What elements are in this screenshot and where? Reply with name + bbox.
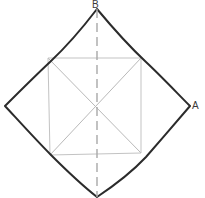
- vertex-label-b: B: [92, 0, 99, 10]
- figure-canvas: [0, 0, 205, 198]
- vertex-label-a: A: [192, 101, 199, 111]
- geometry-figure: B A: [0, 0, 205, 198]
